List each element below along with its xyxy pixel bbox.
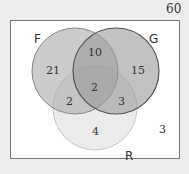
region-fr-only: 2 [66, 95, 73, 108]
region-r-only: 4 [92, 125, 99, 138]
region-f-only: 21 [46, 64, 60, 77]
region-none: 3 [159, 123, 166, 136]
region-gr-only: 3 [118, 95, 125, 108]
region-g-only: 15 [131, 64, 145, 77]
region-fg-only: 10 [88, 46, 102, 59]
set-g-label: G [149, 32, 158, 46]
venn-diagram: F G R 21 15 10 2 2 3 4 3 [0, 0, 189, 174]
set-r-label: R [125, 149, 133, 163]
set-g-circle [73, 28, 159, 114]
region-fgr: 2 [91, 81, 98, 94]
set-f-label: F [34, 32, 41, 46]
